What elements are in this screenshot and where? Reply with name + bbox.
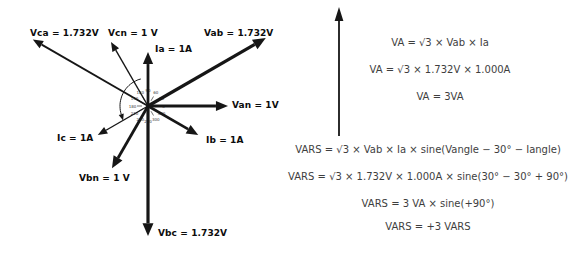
formula-va-substitution: VA = √3 × 1.732V × 1.000A [370, 64, 511, 75]
vector-vbc-arrowhead-icon [143, 223, 154, 236]
formula-va-definition: VA = √3 × Vab × Ia [391, 37, 489, 48]
vars-direction-arrow [335, 7, 344, 136]
vector-vbc [143, 106, 154, 236]
dial-tick [151, 111, 154, 115]
vector-label-ic: Ic = 1A [57, 133, 93, 143]
formula-va-result: VA = 3VA [416, 91, 463, 102]
dial-degree-label: 300 [152, 117, 160, 122]
vector-vcn-arrowhead-icon [111, 42, 119, 52]
phasor-worksheet: 0306090120150180210240270300330 Vca = 1.… [0, 0, 582, 253]
vector-label-ib: Ib = 1A [206, 135, 244, 145]
vector-label-vbc: Vbc = 1.732V [158, 228, 227, 238]
vector-ia [143, 52, 153, 106]
vector-vca-shaft [42, 45, 148, 106]
vector-ic-arrowhead-icon [98, 127, 108, 135]
vector-ia-arrowhead-icon [143, 52, 153, 64]
dial-tick [151, 96, 154, 100]
vector-van-arrowhead-icon [216, 101, 228, 111]
vector-vca [33, 40, 148, 107]
vector-label-vbn: Vbn = 1 V [79, 173, 130, 183]
formula-vars-definition: VARS = √3 × Vab × Ia × sine(Vangle − 30°… [295, 144, 561, 155]
vector-label-vcn: Vcn = 1 V [108, 28, 158, 38]
vector-label-van: Van = 1V [232, 100, 279, 110]
formula-vars-substitution: VARS = √3 × 1.732V × 1.000A × sine(30° −… [288, 171, 568, 182]
dial-degree-label: 180 [129, 104, 137, 109]
vars-direction-arrowhead-icon [335, 7, 344, 21]
vector-van [148, 101, 228, 111]
rotation-arrowhead-icon [119, 113, 124, 120]
vector-label-vca: Vca = 1.732V [30, 28, 99, 38]
formula-vars-result: VARS = +3 VARS [385, 221, 470, 232]
formula-vars-simplified: VARS = 3 VA × sine(+90°) [362, 198, 495, 209]
vector-label-vab: Vab = 1.732V [204, 28, 273, 38]
vector-vcn [111, 42, 148, 106]
dial-degree-label: 60 [153, 90, 159, 95]
vector-label-ia: Ia = 1A [155, 44, 192, 54]
